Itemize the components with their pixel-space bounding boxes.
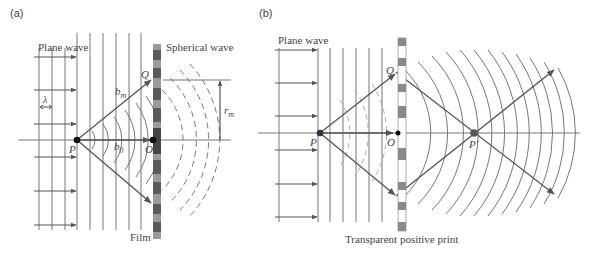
lambda-label: λ xyxy=(43,95,47,105)
plane-wave-arrows-a xyxy=(34,57,76,225)
plane-wavefronts-a xyxy=(39,33,141,230)
print-label: Transparent positive print xyxy=(345,234,458,245)
P-label-a: P xyxy=(69,144,76,155)
plane-wave-label-a: Plane wave xyxy=(38,42,88,53)
O-label-a: O xyxy=(145,144,153,155)
spherical-wave-label: Spherical wave xyxy=(166,42,234,53)
panel-a xyxy=(18,33,231,230)
P-label-b: P xyxy=(310,137,317,148)
O-label-b: O xyxy=(387,137,395,148)
panel-b-tag: (b) xyxy=(259,8,272,19)
panel-b xyxy=(258,48,580,222)
plane-wavefronts-b xyxy=(279,48,382,222)
rm-label: rm xyxy=(224,105,234,119)
lambda-arrow xyxy=(40,105,52,109)
plane-wave-label-b: Plane wave xyxy=(278,35,328,46)
b0-label: b0 xyxy=(114,141,124,155)
holography-figure: (a) Plane wave Spherical wave λ Q P O bm… xyxy=(0,0,590,256)
Q-label-b: Q xyxy=(386,65,394,76)
point-P-prime xyxy=(470,129,478,137)
point-O-b xyxy=(396,131,401,136)
bm-label: bm xyxy=(115,86,126,100)
point-P-b xyxy=(317,130,324,137)
film-label: Film xyxy=(130,232,151,243)
P-prime-label: P′ xyxy=(469,139,478,150)
Q-label-a: Q xyxy=(141,69,149,80)
panel-a-tag: (a) xyxy=(10,8,23,19)
